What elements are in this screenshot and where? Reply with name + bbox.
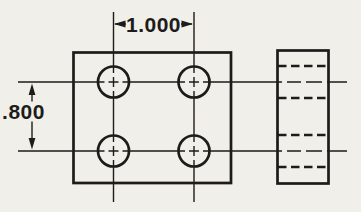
horizontal-dimension-label: 1.000 (126, 13, 181, 36)
technical-drawing: 1.000 .800 (0, 0, 361, 212)
drawing-svg: 1.000 .800 (0, 0, 361, 212)
vertical-dimension-label: .800 (2, 100, 45, 123)
